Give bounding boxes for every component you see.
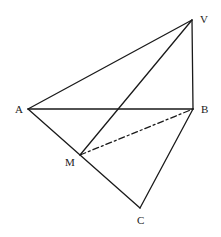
geometry-diagram: V A B M C <box>0 0 221 237</box>
vertex-label-M: M <box>65 156 75 168</box>
edge-VA <box>28 20 192 109</box>
vertex-label-B: B <box>201 103 208 115</box>
vertex-label-V: V <box>200 13 208 25</box>
edge-MB-dashed <box>80 109 193 155</box>
edge-BC <box>140 109 193 208</box>
edge-VB <box>192 20 193 109</box>
vertex-label-A: A <box>15 103 23 115</box>
edge-VM <box>80 20 192 155</box>
vertex-label-C: C <box>137 214 144 226</box>
edge-AC <box>28 109 140 208</box>
